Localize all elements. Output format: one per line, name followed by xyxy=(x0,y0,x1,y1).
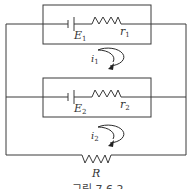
arrowhead-i1-icon xyxy=(108,63,114,70)
loop-i1: i1 xyxy=(91,48,124,70)
label-r1: r1 xyxy=(120,25,130,39)
circuit-diagram: E1 r1 i1 E2 r2 i2 R 그림 7.6.2 xyxy=(0,0,189,189)
label-e1: E1 xyxy=(73,29,87,43)
loop-i2: i2 xyxy=(91,125,124,147)
resistor-r2-icon xyxy=(92,90,121,97)
branch-1: E1 r1 xyxy=(6,17,186,43)
label-i2: i2 xyxy=(91,130,99,143)
resistor-r-icon xyxy=(82,155,111,163)
label-r: R xyxy=(91,167,100,180)
figure-caption: 그림 7.6.2 xyxy=(72,183,124,189)
load-branch: R xyxy=(6,155,186,180)
branch-2: E2 r2 xyxy=(6,90,186,116)
label-e2: E2 xyxy=(73,102,87,116)
resistor-r1-icon xyxy=(92,17,121,24)
loop-arrow-i1-icon xyxy=(98,48,124,66)
label-i1: i1 xyxy=(91,53,99,66)
loop-arrow-i2-icon xyxy=(98,125,124,143)
label-r2: r2 xyxy=(120,98,130,112)
arrowhead-i2-icon xyxy=(108,140,114,147)
